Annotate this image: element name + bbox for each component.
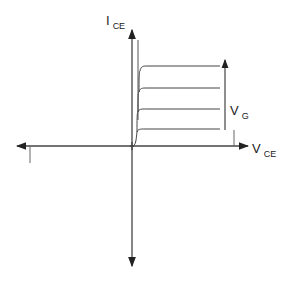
characteristic-diagram bbox=[0, 0, 283, 282]
characteristic-curves bbox=[132, 66, 220, 146]
x-axis-label: VCE bbox=[252, 142, 276, 155]
gate-voltage-label: VG bbox=[230, 104, 249, 117]
y-axis-label: ICE bbox=[106, 14, 125, 27]
